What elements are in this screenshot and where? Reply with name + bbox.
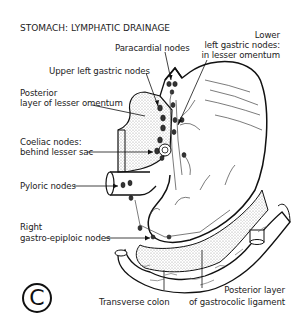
- lesser-omentum-region: [118, 92, 172, 172]
- stomach-illustration: [0, 0, 305, 330]
- pyloric-canal: [110, 172, 156, 195]
